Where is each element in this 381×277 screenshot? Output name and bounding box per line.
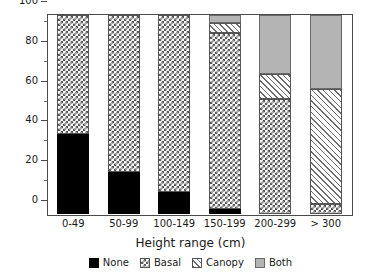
bar-segment-canopy[interactable] bbox=[310, 89, 342, 204]
bar-segment-basal[interactable] bbox=[259, 99, 291, 214]
legend-item-canopy[interactable]: Canopy bbox=[192, 257, 244, 268]
x-axis-tick-label: 0-49 bbox=[48, 218, 99, 230]
y-axis: 100806040200 bbox=[0, 0, 47, 215]
bar-segment-basal[interactable] bbox=[310, 204, 342, 214]
x-axis-tick-label: 150-199 bbox=[200, 218, 251, 230]
y-axis-tick-label: 100 bbox=[19, 0, 38, 6]
bar-segment-both[interactable] bbox=[259, 15, 291, 74]
legend-item-none[interactable]: None bbox=[89, 257, 129, 268]
legend-swatch-none-icon bbox=[89, 258, 99, 268]
legend-label: Canopy bbox=[206, 257, 244, 268]
x-axis-tick-label: 100-149 bbox=[149, 218, 200, 230]
bar-150-199[interactable] bbox=[209, 15, 241, 214]
stacked-bar-chart-figure: 100806040200 0-4950-99100-149150-199200-… bbox=[0, 0, 381, 277]
legend-swatch-basal-icon bbox=[140, 258, 150, 268]
bar-50-99[interactable] bbox=[108, 15, 140, 214]
y-axis-tick-label: 60 bbox=[25, 76, 38, 86]
legend-label: Both bbox=[269, 257, 292, 268]
bar-segment-basal[interactable] bbox=[57, 15, 89, 134]
bar-100-149[interactable] bbox=[158, 15, 190, 214]
x-axis-tick-label: 200-299 bbox=[250, 218, 301, 230]
bar-segment-none[interactable] bbox=[57, 134, 89, 214]
bar-segment-canopy[interactable] bbox=[259, 74, 291, 99]
y-axis-tick-label: 0 bbox=[32, 195, 38, 205]
bar-segment-canopy[interactable] bbox=[209, 23, 241, 33]
chart-legend: NoneBasalCanopyBoth bbox=[0, 257, 381, 268]
y-axis-tick-label: 20 bbox=[25, 155, 38, 165]
x-axis-tick-label: > 300 bbox=[301, 218, 352, 230]
bar-segment-both[interactable] bbox=[310, 15, 342, 89]
bar-segment-none[interactable] bbox=[209, 209, 241, 214]
y-axis-tick-major bbox=[41, 1, 47, 2]
bar-segment-both[interactable] bbox=[209, 15, 241, 23]
legend-item-both[interactable]: Both bbox=[255, 257, 292, 268]
x-axis-title: Height range (cm) bbox=[0, 236, 381, 251]
bar-300[interactable] bbox=[310, 15, 342, 214]
bar-segment-basal[interactable] bbox=[108, 15, 140, 172]
legend-swatch-both-icon bbox=[255, 258, 265, 268]
y-axis-tick-label: 40 bbox=[25, 115, 38, 125]
bar-segment-none[interactable] bbox=[158, 192, 190, 214]
x-axis-tick-labels: 0-4950-99100-149150-199200-299> 300 bbox=[48, 218, 351, 234]
bar-200-299[interactable] bbox=[259, 15, 291, 214]
x-axis-tick-label: 50-99 bbox=[99, 218, 150, 230]
bar-segment-basal[interactable] bbox=[158, 15, 190, 192]
y-axis-tick-label: 80 bbox=[25, 36, 38, 46]
bars-container bbox=[48, 15, 351, 214]
bar-segment-basal[interactable] bbox=[209, 33, 241, 209]
legend-label: None bbox=[103, 257, 129, 268]
legend-label: Basal bbox=[154, 257, 181, 268]
bar-0-49[interactable] bbox=[57, 15, 89, 214]
legend-swatch-canopy-icon bbox=[192, 258, 202, 268]
legend-item-basal[interactable]: Basal bbox=[140, 257, 181, 268]
bar-segment-none[interactable] bbox=[108, 172, 140, 214]
